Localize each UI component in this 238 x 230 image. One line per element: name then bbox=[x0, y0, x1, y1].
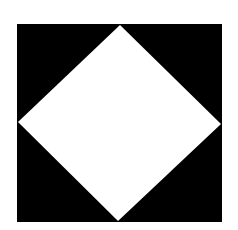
figure-canvas bbox=[0, 0, 238, 230]
diamond-in-square-graphic bbox=[0, 0, 238, 230]
